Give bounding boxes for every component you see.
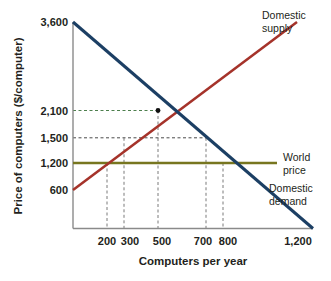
world-price-label-line1: World [283, 151, 310, 163]
y-tick-1500: 1,500 [40, 132, 68, 144]
domestic-supply-label-line2: supply [262, 22, 293, 34]
x-tick-200: 200 [98, 235, 116, 247]
y-tick-1200: 1,200 [40, 157, 68, 169]
x-tick-700: 700 [194, 235, 212, 247]
y-axis-title: Price of computers ($/computer) [12, 37, 24, 214]
equilibrium-point-marker [156, 108, 161, 113]
y-tick-600: 600 [50, 184, 68, 196]
domestic-demand-label-line2: demand [269, 195, 307, 207]
domestic-supply-label-line1: Domestic [262, 9, 306, 21]
x-axis-title: Computers per year [139, 255, 248, 267]
supply-demand-chart: 3,600 2,100 1,500 1,200 600 200 300 500 … [0, 0, 331, 281]
x-tick-800: 800 [219, 235, 237, 247]
x-tick-500: 500 [153, 235, 171, 247]
world-price-label-line2: price [283, 164, 306, 176]
series-label-domestic-demand: Domestic demand [269, 182, 313, 207]
domestic-demand-label-line1: Domestic [269, 182, 313, 194]
x-tick-1200: 1,200 [284, 235, 312, 247]
y-tick-3600: 3,600 [40, 16, 68, 28]
x-tick-300: 300 [121, 235, 139, 247]
y-tick-2100: 2,100 [40, 105, 68, 117]
